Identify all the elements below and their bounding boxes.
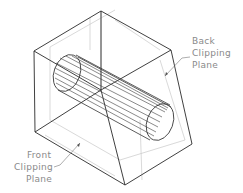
clipping-volume-diagram: Back Clipping Plane Front Clipping Plane <box>0 0 243 193</box>
front-label-line-2: Clipping <box>14 162 53 172</box>
back-label-line-3: Plane <box>192 60 218 70</box>
front-clipping-plane-label: Front Clipping Plane <box>14 150 53 184</box>
back-clipping-plane-label: Back Clipping Plane <box>192 36 231 70</box>
leaders <box>54 57 190 167</box>
hidden-edges <box>45 10 185 180</box>
front-label-line-3: Plane <box>26 174 52 184</box>
front-label-line-1: Front <box>27 150 51 160</box>
back-label-line-1: Back <box>192 36 216 46</box>
back-label-line-2: Clipping <box>192 48 231 58</box>
